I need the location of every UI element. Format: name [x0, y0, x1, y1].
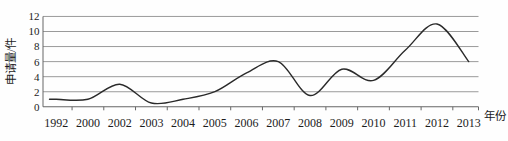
x-tick-label: 2003: [139, 116, 163, 130]
x-tick-label: 2006: [235, 116, 259, 130]
y-tick-label: 4: [34, 71, 40, 83]
plot-svg: 0246810121992200020022003200420052006200…: [0, 0, 508, 141]
x-tick-label: 2012: [425, 116, 449, 130]
x-tick-label: 2004: [171, 116, 195, 130]
x-tick-label: 2008: [298, 116, 322, 130]
y-tick-label: 2: [34, 86, 40, 98]
x-tick-label: 2005: [203, 116, 227, 130]
x-axis-title: 年份: [484, 110, 506, 123]
x-tick-label: 2009: [330, 116, 354, 130]
x-tick-label: 2000: [76, 116, 100, 130]
y-tick-label: 0: [34, 101, 40, 113]
chart-container: 0246810121992200020022003200420052006200…: [0, 0, 508, 141]
y-tick-label: 8: [34, 40, 40, 52]
x-tick-label: 2007: [266, 116, 290, 130]
y-axis-title: 申请量/件: [5, 30, 18, 94]
x-tick-label: 1992: [44, 116, 68, 130]
y-tick-label: 12: [29, 10, 40, 22]
x-tick-label: 2011: [393, 116, 417, 130]
x-tick-label: 2013: [457, 116, 481, 130]
x-tick-label: 2002: [108, 116, 132, 130]
y-tick-label: 6: [34, 56, 40, 68]
x-tick-label: 2010: [362, 116, 386, 130]
y-tick-label: 10: [29, 25, 41, 37]
